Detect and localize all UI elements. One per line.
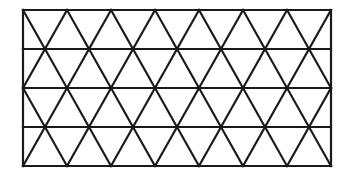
triangle-grid-diagram	[0, 0, 347, 176]
